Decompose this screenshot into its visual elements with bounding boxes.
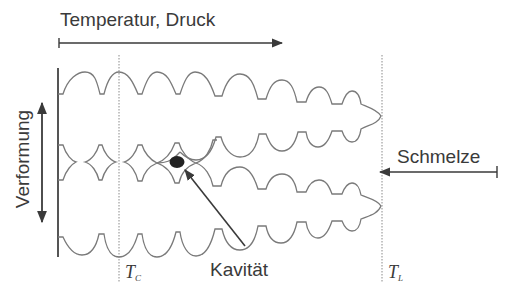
tc-sub: C <box>135 273 141 283</box>
cavity-label: Kavität <box>210 259 268 281</box>
second-strand <box>157 116 381 163</box>
middle-cells <box>58 140 217 183</box>
tl-label: TL <box>388 262 403 283</box>
temperature-pressure-arrow <box>59 38 282 48</box>
cavity-dot <box>170 156 185 168</box>
tl-main: T <box>388 262 398 282</box>
tc-label: TC <box>125 262 141 283</box>
deformation-label: Verformung <box>12 109 34 209</box>
tc-main: T <box>125 262 135 282</box>
temperature-pressure-label: Temperatur, Druck <box>60 9 215 31</box>
top-strand <box>58 72 381 116</box>
melt-label: Schmelze <box>397 146 480 168</box>
tl-sub: L <box>398 273 403 283</box>
cavity-pointer-arrow <box>185 170 245 246</box>
third-strand <box>196 163 381 206</box>
